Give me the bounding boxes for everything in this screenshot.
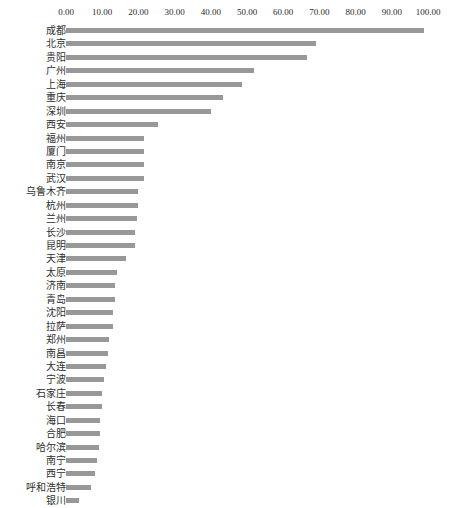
category-label: 长沙 <box>46 226 66 239</box>
x-axis-tick-label: 20.00 <box>128 7 148 17</box>
bar <box>66 149 144 154</box>
category-label: 上海 <box>46 78 66 91</box>
category-label: 南昌 <box>46 347 66 360</box>
x-axis-tick-label: 40.00 <box>201 7 221 17</box>
x-axis-tick-label: 60.00 <box>273 7 293 17</box>
bar-row: 长沙 <box>0 226 451 239</box>
category-label: 呼和浩特 <box>26 481 66 494</box>
category-label: 厦门 <box>46 145 66 158</box>
category-label: 海口 <box>46 414 66 427</box>
category-label: 重庆 <box>46 91 66 104</box>
x-axis-tick-label: 70.00 <box>309 7 329 17</box>
bar <box>66 337 109 342</box>
category-label: 南京 <box>46 158 66 171</box>
bar-row: 成都 <box>0 24 451 37</box>
bar <box>66 458 97 463</box>
category-label: 沈阳 <box>46 306 66 319</box>
bar-row: 西安 <box>0 118 451 131</box>
x-axis-tick-label: 50.00 <box>237 7 257 17</box>
bar-row: 厦门 <box>0 145 451 158</box>
bar <box>66 256 126 261</box>
bar <box>66 297 115 302</box>
bar <box>66 418 100 423</box>
category-label: 西宁 <box>46 467 66 480</box>
bar-row: 福州 <box>0 132 451 145</box>
category-label: 深圳 <box>46 105 66 118</box>
category-label: 哈尔滨 <box>36 441 66 454</box>
category-label: 郑州 <box>46 333 66 346</box>
category-label: 银川 <box>46 494 66 507</box>
category-label: 武汉 <box>46 172 66 185</box>
category-label: 广州 <box>46 64 66 77</box>
bar-row: 哈尔滨 <box>0 441 451 454</box>
bar <box>66 485 91 490</box>
bar <box>66 68 254 73</box>
bar <box>66 310 113 315</box>
bar <box>66 162 144 167</box>
bar <box>66 377 104 382</box>
plot-area: 成都北京贵阳广州上海重庆深圳西安福州厦门南京武汉乌鲁木齐杭州兰州长沙昆明天津太原… <box>0 24 451 497</box>
category-label: 西安 <box>46 118 66 131</box>
x-axis-tick-label: 80.00 <box>345 7 365 17</box>
bar-row: 呼和浩特 <box>0 481 451 494</box>
bar-row: 深圳 <box>0 105 451 118</box>
x-axis-tick-label: 100.00 <box>416 7 441 17</box>
bar-row: 长春 <box>0 400 451 413</box>
bar-row: 济南 <box>0 279 451 292</box>
bar-row: 天津 <box>0 252 451 265</box>
bar <box>66 283 115 288</box>
bar-row: 大连 <box>0 360 451 373</box>
bar-row: 贵阳 <box>0 51 451 64</box>
category-label: 天津 <box>46 252 66 265</box>
bar-row: 太原 <box>0 266 451 279</box>
bar <box>66 243 135 248</box>
bar <box>66 498 79 503</box>
category-label: 杭州 <box>46 199 66 212</box>
bar-row: 海口 <box>0 414 451 427</box>
bar-row: 青岛 <box>0 293 451 306</box>
bar <box>66 189 138 194</box>
bar-row: 兰州 <box>0 212 451 225</box>
bar-row: 杭州 <box>0 199 451 212</box>
bar <box>66 324 113 329</box>
bar <box>66 351 108 356</box>
bar-row: 重庆 <box>0 91 451 104</box>
x-axis-tick-label: 10.00 <box>92 7 112 17</box>
category-label: 乌鲁木齐 <box>26 185 66 198</box>
bar <box>66 216 137 221</box>
bar <box>66 445 99 450</box>
bar <box>66 270 117 275</box>
bar-row: 沈阳 <box>0 306 451 319</box>
bar <box>66 41 316 46</box>
bar-row: 郑州 <box>0 333 451 346</box>
bar <box>66 136 144 141</box>
bar <box>66 28 424 33</box>
bar <box>66 404 102 409</box>
category-label: 北京 <box>46 37 66 50</box>
bar-row: 石家庄 <box>0 387 451 400</box>
bar <box>66 471 95 476</box>
x-axis-tick-label: 90.00 <box>382 7 402 17</box>
category-label: 石家庄 <box>36 387 66 400</box>
category-label: 合肥 <box>46 427 66 440</box>
category-label: 宁波 <box>46 373 66 386</box>
category-label: 长春 <box>46 400 66 413</box>
bar <box>66 176 144 181</box>
category-label: 济南 <box>46 279 66 292</box>
bar <box>66 55 307 60</box>
bar <box>66 391 102 396</box>
bar-row: 合肥 <box>0 427 451 440</box>
category-label: 南宁 <box>46 454 66 467</box>
x-axis-tick-label: 30.00 <box>164 7 184 17</box>
bar <box>66 82 242 87</box>
bar-row: 南京 <box>0 158 451 171</box>
category-label: 太原 <box>46 266 66 279</box>
category-label: 大连 <box>46 360 66 373</box>
bar <box>66 364 106 369</box>
bar <box>66 95 223 100</box>
bar-row: 南昌 <box>0 347 451 360</box>
bar-row: 宁波 <box>0 373 451 386</box>
bar-row: 拉萨 <box>0 320 451 333</box>
bar <box>66 431 100 436</box>
bar-row: 上海 <box>0 78 451 91</box>
